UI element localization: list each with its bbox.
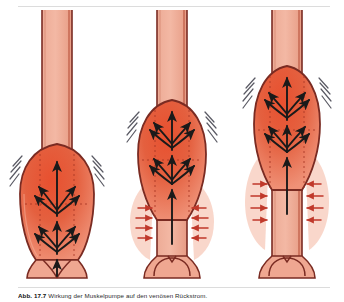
vessel-panel-2 [118, 8, 226, 284]
vein-tube-upper [42, 10, 72, 158]
venous-valve [144, 256, 200, 278]
vessel-panel-3 [233, 8, 341, 284]
pulsation-marks-right [205, 112, 217, 142]
vein-tube-upper [157, 10, 187, 114]
pulsation-marks-right [319, 78, 331, 108]
pulsation-marks-left [243, 78, 255, 108]
pulsation-marks-left [127, 112, 139, 142]
figure-caption-number: Abb. 17.7 [18, 292, 46, 299]
top-divider-rule [18, 6, 330, 7]
figure-caption-text: Wirkung der Muskelpumpe auf den venösen … [48, 292, 207, 299]
bottom-divider-rule [18, 287, 330, 288]
figure-caption: Abb. 17.7 Wirkung der Muskelpumpe auf de… [18, 291, 330, 302]
vessel-panel-1 [3, 8, 111, 284]
panel-row [0, 8, 344, 284]
venous-valve [259, 256, 315, 278]
figure-plate: Abb. 17.7 Wirkung der Muskelpumpe auf de… [0, 0, 344, 302]
